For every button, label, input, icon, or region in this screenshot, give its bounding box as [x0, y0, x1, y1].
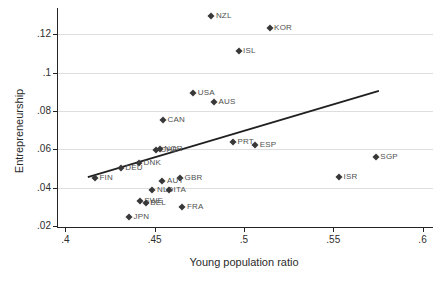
x-axis-tick [423, 228, 424, 232]
y-axis-tick [53, 188, 57, 189]
data-point-label-ESP: ESP [260, 141, 277, 149]
x-axis-title: Young population ratio [189, 256, 298, 268]
data-point-label-USA: USA [198, 88, 215, 96]
x-tick-label: .6 [418, 235, 426, 245]
y-axis-tick [53, 226, 57, 227]
data-point-label-JPN: JPN [134, 212, 150, 220]
x-tick-label: .5 [240, 235, 248, 245]
x-axis-tick [155, 228, 156, 232]
y-axis-tick [53, 34, 57, 35]
data-point-label-AUS: AUS [219, 98, 236, 106]
y-axis-title: Entrepreneurship [13, 89, 25, 173]
x-axis-tick [65, 228, 66, 232]
data-point-label-FRA: FRA [187, 203, 204, 211]
y-tick-label: .06 [0, 144, 51, 154]
trend-line [58, 8, 433, 227]
data-point-label-SGP: SGP [380, 153, 398, 161]
x-tick-label: .45 [148, 235, 162, 245]
data-point-label-NZL: NZL [216, 12, 232, 20]
x-tick-label: .55 [326, 235, 340, 245]
data-point-label-AUT: AUT [167, 177, 184, 185]
y-tick-label: .12 [0, 29, 51, 39]
y-tick-label: .1 [0, 68, 51, 78]
y-tick-label: .04 [0, 183, 51, 193]
data-point-label-NOR: NOR [164, 145, 182, 153]
data-point-label-ISL: ISL [243, 47, 256, 55]
data-point-label-DNK: DNK [144, 159, 162, 167]
data-point-label-CAN: CAN [168, 116, 186, 124]
x-axis-tick [333, 228, 334, 232]
y-axis-tick [53, 73, 57, 74]
scatter-chart: Entrepreneurship NZLKORISLUSAAUSCANPRTES… [0, 0, 440, 284]
y-axis-tick [53, 149, 57, 150]
data-point-label-KOR: KOR [274, 24, 292, 32]
y-axis-tick [53, 111, 57, 112]
data-point-label-GBR: GBR [184, 174, 202, 182]
data-point-label-ITA: ITA [174, 186, 186, 194]
plot-area: NZLKORISLUSAAUSCANPRTESPCHENORSGPDNKDEUI… [57, 8, 433, 228]
data-point-label-ISR: ISR [344, 173, 358, 181]
data-point-label-FIN: FIN [99, 174, 113, 182]
x-tick-label: .4 [61, 235, 69, 245]
data-point-label-BEL: BEL [150, 199, 166, 207]
data-point-label-DEU: DEU [125, 164, 143, 172]
y-tick-label: .08 [0, 106, 51, 116]
y-tick-label: .02 [0, 221, 51, 231]
x-axis-tick [244, 228, 245, 232]
